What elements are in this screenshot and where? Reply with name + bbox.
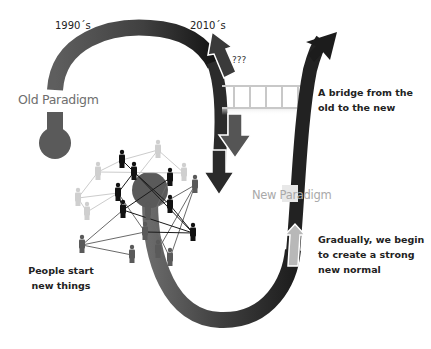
gradually-caption: Gradually, we begin to create a strong n… <box>318 232 428 277</box>
old-paradigm-arc <box>55 28 215 90</box>
old-paradigm-bulb <box>39 112 71 159</box>
people-caption-line-1: People start <box>28 263 94 278</box>
new-paradigm-path <box>293 40 322 252</box>
new-paradigm-label: New Paradigm <box>252 188 331 202</box>
bridge-ladder <box>222 86 308 115</box>
people-caption: People start new things <box>28 263 94 293</box>
paradigm-shift-diagram <box>0 0 431 349</box>
down-arrow-lower-icon <box>204 150 234 195</box>
bridge-caption-line-2: old to the new <box>318 100 428 115</box>
unknown-label: ??? <box>232 55 246 65</box>
era-label-2010s: 2010´s <box>190 20 226 31</box>
gradually-caption-line-1: Gradually, we begin <box>318 232 428 247</box>
era-label-1990s: 1990´s <box>55 20 91 31</box>
network-seed-bulb <box>132 172 168 208</box>
people-caption-line-2: new things <box>28 278 94 293</box>
bridge-caption-line-1: A bridge from the <box>318 85 428 100</box>
old-paradigm-label: Old Paradigm <box>18 92 99 107</box>
gradually-caption-line-2: to create a strong <box>318 247 428 262</box>
bridge-caption: A bridge from the old to the new <box>318 85 428 115</box>
gradually-caption-line-3: new normal <box>318 262 428 277</box>
people-network-links <box>78 150 195 258</box>
